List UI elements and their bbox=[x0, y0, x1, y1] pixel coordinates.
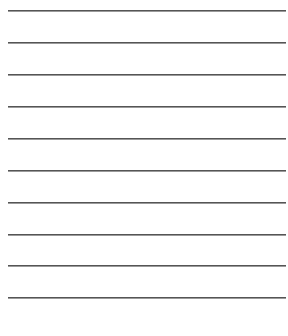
ruled-line-9 bbox=[8, 265, 286, 267]
ruled-line-7 bbox=[8, 202, 286, 204]
ruled-line-4 bbox=[8, 106, 286, 108]
ruled-line-1 bbox=[8, 10, 286, 12]
ruled-line-5 bbox=[8, 138, 286, 140]
ruled-line-2 bbox=[8, 42, 286, 44]
ruled-line-8 bbox=[8, 234, 286, 236]
ruled-line-3 bbox=[8, 74, 286, 76]
ruled-line-6 bbox=[8, 170, 286, 172]
ruled-sheet bbox=[0, 0, 288, 336]
ruled-line-10 bbox=[8, 297, 286, 299]
